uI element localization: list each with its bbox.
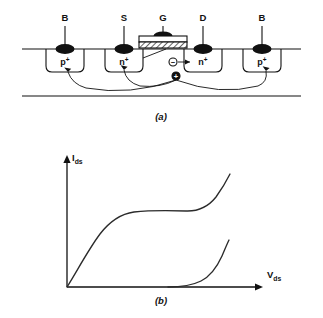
hole-current-arrow-left-body [64, 67, 71, 72]
contact-drain [194, 44, 213, 54]
figure-root: − + B S G D B p+ n+ n+ p+ (a) [0, 0, 323, 318]
hole-current-path-to-right-body [176, 71, 266, 90]
chart-x-axis-arrowhead [255, 283, 263, 290]
chart-y-axis-arrowhead [63, 155, 70, 163]
panel-b-iv-chart: Ids Vds (b) [0, 130, 323, 318]
hole-current-path-to-left-body [68, 72, 176, 91]
gate-oxide-layer [139, 42, 187, 48]
terminal-label-gate: G [159, 12, 166, 23]
channel-pinchoff-line [143, 49, 166, 58]
region-label-drain: n+ [198, 56, 208, 67]
electron-drift-arrow-head [185, 60, 190, 65]
contact-source [115, 44, 134, 54]
chart-y-axis-label: Ids [72, 152, 83, 165]
panel-a-device-cross-section: − + B S G D B p+ n+ n+ p+ (a) [0, 0, 323, 130]
region-label-body-left: p+ [60, 56, 70, 67]
caption-panel-b: (b) [155, 295, 167, 306]
terminal-label-source: S [121, 12, 127, 23]
chart-x-axis-label: Vds [267, 269, 281, 282]
hole-symbol-glyph: + [174, 72, 179, 81]
contact-body-left [56, 44, 75, 54]
region-label-source: n+ [119, 56, 129, 67]
terminal-label-body-right: B [259, 12, 266, 23]
caption-panel-a: (a) [155, 111, 167, 122]
chart-curve-subthreshold-breakdown [168, 240, 229, 287]
chart-curve-high-gate-bias [67, 174, 230, 287]
terminal-label-body-left: B [62, 12, 69, 23]
region-label-body-right: p+ [257, 56, 267, 67]
gate-polysilicon-layer [139, 36, 187, 42]
electron-symbol-glyph: − [171, 58, 176, 67]
terminal-label-drain: D [200, 12, 207, 23]
contact-body-right [253, 44, 272, 54]
hole-current-arrow-right-body [263, 66, 270, 71]
